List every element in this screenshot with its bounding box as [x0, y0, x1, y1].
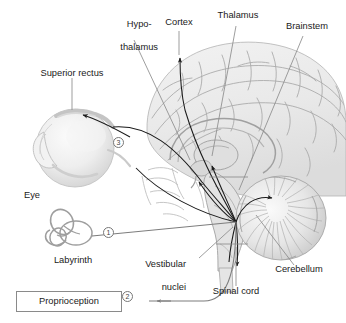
- eye-highlight: [66, 120, 106, 152]
- label-brainstem: Brainstem: [277, 21, 337, 32]
- label-hypothalamus-line2: thalamus: [120, 42, 158, 52]
- label-cerebellum: Cerebellum: [262, 264, 336, 275]
- proprioception-box: Proprioception: [16, 291, 122, 312]
- label-cortex: Cortex: [153, 17, 205, 28]
- label-vestibular-nuclei-line1: Vestibular: [145, 259, 186, 269]
- marker-3: 3: [113, 137, 124, 148]
- label-thalamus: Thalamus: [212, 10, 264, 21]
- marker-2: 2: [122, 291, 133, 302]
- label-hypothalamus-line1: Hypo-: [127, 19, 152, 29]
- labyrinth-illustration: [46, 205, 92, 248]
- label-vestibular-nuclei-line2: nuclei: [162, 282, 186, 292]
- vestibular-connections-figure: Hypo- thalamus Cortex Thalamus Brainstem…: [0, 0, 346, 323]
- eye-illustration: [33, 109, 130, 187]
- label-spinal-cord: Spinal cord: [198, 286, 274, 297]
- label-labyrinth: Labyrinth: [38, 255, 108, 266]
- label-superior-rectus: Superior rectus: [22, 68, 122, 79]
- label-eye: Eye: [24, 190, 40, 201]
- marker-1: 1: [103, 227, 114, 238]
